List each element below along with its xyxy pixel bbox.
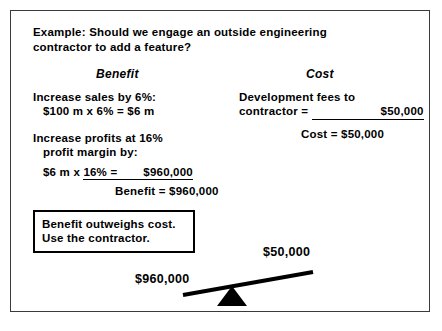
seesaw-diagram: $960,000 $50,000 — [121, 239, 351, 311]
benefit-item-1-line-2: $100 m x 6% = $6 m — [33, 104, 156, 118]
benefit-item-1: Increase sales by 6%: $100 m x 6% = $6 m — [33, 90, 156, 118]
cost-total-label: Cost = — [301, 128, 338, 140]
example-prompt-line-1: Example: Should we engage an outside eng… — [33, 26, 327, 38]
benefit-calculation-row: $6 m x 16% =$960,000 — [33, 166, 193, 180]
benefit-total-value: $960,000 — [169, 185, 219, 197]
benefit-item-2-line-2: profit margin by: — [33, 145, 163, 159]
benefit-item-1-line-1: Increase sales by 6%: — [33, 91, 156, 103]
benefit-total-row: Benefit = $960,000 — [115, 185, 219, 197]
benefit-calc-result: $960,000 — [143, 166, 193, 178]
cost-column-header: Cost — [306, 67, 334, 81]
cost-item-1-line-2: contractor = $50,000 — [239, 104, 424, 120]
benefit-item-2-line-1: Increase profits at 16% — [33, 132, 163, 144]
benefit-total-label: Benefit = — [115, 185, 166, 197]
example-prompt-line-2: contractor to add a feature? — [33, 40, 405, 55]
example-prompt: Example: Should we engage an outside eng… — [33, 25, 405, 55]
benefit-item-2: Increase profits at 16% profit margin by… — [33, 131, 163, 159]
cost-total-value: $50,000 — [341, 128, 384, 140]
benefit-column-header: Benefit — [96, 67, 139, 81]
conclusion-line-1: Benefit outweighs cost. — [42, 218, 176, 230]
seesaw-benefit-label: $960,000 — [135, 272, 190, 286]
seesaw-beam — [183, 272, 313, 295]
cost-item-1-label: contractor = — [239, 105, 308, 117]
benefit-calc-operator: 16% = — [83, 166, 117, 178]
seesaw-cost-label: $50,000 — [263, 245, 310, 259]
cost-total-row: Cost = $50,000 — [301, 128, 384, 140]
cost-item-1: Development fees to contractor = $50,000 — [239, 90, 424, 120]
cost-item-1-value: $50,000 — [312, 104, 424, 120]
benefit-calc-underlined: 16% =$960,000 — [83, 166, 193, 180]
cost-item-1-line-1: Development fees to — [239, 91, 355, 103]
slide-frame: Example: Should we engage an outside eng… — [10, 10, 430, 312]
benefit-calc-prefix: $6 m x — [33, 166, 83, 178]
